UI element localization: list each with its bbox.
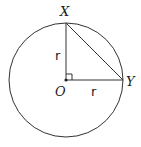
- label-r-vertical: r: [55, 48, 61, 63]
- label-y: Y: [126, 74, 136, 89]
- label-x: X: [59, 4, 70, 19]
- center-point: [64, 78, 67, 81]
- circle-diagram: X Y O r r: [0, 0, 141, 147]
- label-r-horizontal: r: [91, 84, 97, 99]
- label-o: O: [55, 84, 66, 99]
- chord-xy: [66, 23, 123, 80]
